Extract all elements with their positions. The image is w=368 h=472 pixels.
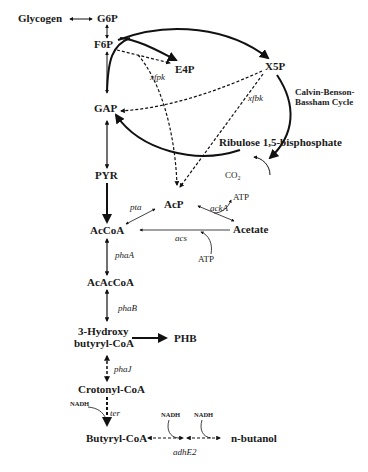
enzyme-acs: acs <box>175 233 187 243</box>
node-butyryl: Butyryl-CoA <box>86 432 147 444</box>
cycle-label-line1: Calvin-Benson- <box>295 87 355 97</box>
enzyme-ter: ter <box>110 408 120 418</box>
node-glycogen: Glycogen <box>18 12 62 24</box>
cofactor-nadh-ter: NADH <box>70 400 89 407</box>
node-f6p: F6P <box>94 38 113 50</box>
enzyme-acka: ackA <box>210 203 228 213</box>
node-g6p: G6P <box>97 12 118 24</box>
node-phb: PHB <box>174 332 197 344</box>
node-rubp: Ribulose 1,5-bisphosphate <box>219 136 342 148</box>
node-hbcoa-line1: 3-Hydroxy <box>78 325 129 337</box>
node-acaccoa: AcAcCoA <box>87 276 134 288</box>
cofactor-nadh-adh2: NADH <box>194 411 213 418</box>
arrow-atp-acs <box>201 232 212 254</box>
node-e4p: E4P <box>175 63 195 75</box>
arrow-f6p-e4p <box>120 38 176 60</box>
arrow-nadh-adh2 <box>201 420 211 438</box>
arrow-nadh-ter <box>88 407 106 419</box>
node-pyr: PYR <box>95 169 119 181</box>
enzyme-xfpk-right: xfbk <box>247 93 264 103</box>
enzyme-phaa: phaA <box>114 250 135 260</box>
enzyme-phaj: phaJ <box>113 364 133 374</box>
enzyme-phab: phaB <box>117 303 138 313</box>
node-crotonyl: Crotonyl-CoA <box>78 383 145 395</box>
node-x5p: X5P <box>265 60 285 72</box>
enzyme-xfpk-left: xfpk <box>149 72 166 82</box>
node-accoa: AcCoA <box>90 224 124 236</box>
enzyme-adhe2: adhE2 <box>173 447 197 457</box>
arrow-x5p-gap <box>121 71 262 111</box>
node-acetate: Acetate <box>233 223 269 235</box>
cofactor-atp-acka: ATP <box>233 192 249 202</box>
cofactor-atp-acs: ATP <box>198 254 214 264</box>
node-butanol: n-butanol <box>231 432 277 444</box>
cofactor-co2: CO₂ <box>225 170 241 180</box>
node-hbcoa-line2: butyryl-CoA <box>74 337 134 349</box>
arrow-x5p-acp <box>180 74 263 187</box>
arrow-nadh-adh1 <box>168 420 178 438</box>
node-gap: GAP <box>94 102 118 114</box>
arrow-co2 <box>254 157 270 175</box>
pathway-diagram: Glycogen G6P F6P E4P X5P GAP Ribulose 1,… <box>0 0 368 472</box>
cycle-label-line2: Bassham Cycle <box>295 97 353 107</box>
cofactor-nadh-adh1: NADH <box>161 411 180 418</box>
enzyme-pta: pta <box>129 202 142 212</box>
node-acp: AcP <box>164 198 184 210</box>
